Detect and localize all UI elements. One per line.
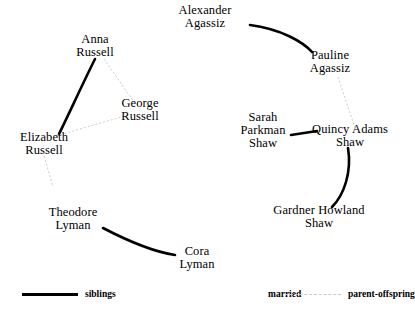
node-label-sarah_parkman_shaw: SarahParkmanShaw bbox=[240, 111, 285, 151]
node-label-gardner_howland_shaw: Gardner HowlandShaw bbox=[273, 204, 364, 230]
node-label-line: Shaw bbox=[240, 138, 285, 151]
node-label-quincy_adams_shaw: Quincy AdamsShaw bbox=[312, 123, 388, 149]
node-label-line: Russell bbox=[121, 110, 159, 123]
legend: siblingsmarriedparent-offspring bbox=[0, 286, 403, 315]
node-label-theodore_lyman: TheodoreLyman bbox=[49, 206, 98, 232]
legend-entry-siblings: siblings bbox=[22, 286, 116, 302]
node-label-george_russell: GeorgeRussell bbox=[121, 97, 159, 123]
node-label-alexander_agassiz: AlexanderAgassiz bbox=[179, 4, 232, 30]
edge-siblings bbox=[59, 59, 95, 134]
edge-siblings bbox=[103, 228, 175, 255]
node-label-elizabeth_russell: ElizabethRussell bbox=[20, 131, 68, 157]
node-label-line: Lyman bbox=[179, 258, 214, 271]
legend-swatch-siblings bbox=[22, 293, 78, 296]
node-label-line: Shaw bbox=[273, 217, 364, 230]
node-label-line: Russell bbox=[20, 144, 68, 157]
edge-siblings bbox=[332, 148, 349, 207]
edge-parent-offspring bbox=[338, 77, 355, 128]
edge-parent-offspring bbox=[44, 156, 53, 187]
node-label-line: Lyman bbox=[49, 219, 98, 232]
node-label-pauline_agassiz: PaulineAgassiz bbox=[310, 49, 350, 75]
legend-swatch-married bbox=[205, 293, 261, 296]
legend-label-siblings: siblings bbox=[85, 289, 116, 299]
node-label-line: Russell bbox=[76, 46, 114, 59]
node-label-anna_russell: AnnaRussell bbox=[76, 33, 114, 59]
legend-entry-parent_offspring: parent-offspring bbox=[285, 286, 415, 302]
edge-siblings bbox=[250, 25, 312, 52]
legend-label-parent_offspring: parent-offspring bbox=[348, 289, 415, 299]
node-label-line: Agassiz bbox=[179, 17, 232, 30]
legend-swatch-parent_offspring bbox=[285, 294, 341, 295]
node-label-line: Shaw bbox=[312, 136, 388, 149]
node-label-line: Agassiz bbox=[310, 62, 350, 75]
node-label-cora_lyman: CoraLyman bbox=[179, 245, 214, 271]
